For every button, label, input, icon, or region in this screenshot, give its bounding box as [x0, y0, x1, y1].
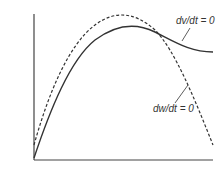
dv-nullcline-curve	[34, 26, 213, 158]
dw-label-pointer	[175, 85, 188, 103]
dv-label-pointer	[182, 28, 190, 41]
dv-nullcline-label: dv/dt = 0	[176, 15, 215, 26]
dw-nullcline-label: dw/dt = 0	[153, 103, 194, 114]
